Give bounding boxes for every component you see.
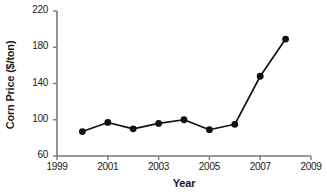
axis-spine <box>57 11 311 156</box>
data-point-marker <box>231 121 238 128</box>
data-point-marker <box>155 120 162 127</box>
x-axis-tick-label: 2003 <box>142 161 176 172</box>
data-point-marker <box>282 36 289 43</box>
data-point-marker <box>130 125 137 132</box>
data-point-marker <box>257 73 264 80</box>
x-axis-tick-label: 2005 <box>192 161 226 172</box>
x-axis-tick-label: 1999 <box>40 161 74 172</box>
x-axis-tick-label: 2007 <box>243 161 277 172</box>
y-axis-tick-label: 60 <box>22 149 48 160</box>
data-point-marker <box>79 128 86 135</box>
y-axis-tick-label: 100 <box>22 113 48 124</box>
corn-price-line-chart: Corn Price ($/ton) Year 60100140180220 1… <box>0 0 327 196</box>
y-axis-tick-label: 180 <box>22 40 48 51</box>
y-axis-title: Corn Price ($/ton) <box>4 10 20 160</box>
data-point-marker <box>104 119 111 126</box>
y-axis-tick-label: 140 <box>22 77 48 88</box>
data-point-marker <box>181 116 188 123</box>
data-point-markers <box>79 36 289 135</box>
x-axis-tick-label: 2001 <box>91 161 125 172</box>
x-axis-title: Year <box>57 177 311 189</box>
y-axis-tick-label: 220 <box>22 4 48 15</box>
data-point-marker <box>206 126 213 133</box>
x-axis-tick-label: 2009 <box>294 161 327 172</box>
